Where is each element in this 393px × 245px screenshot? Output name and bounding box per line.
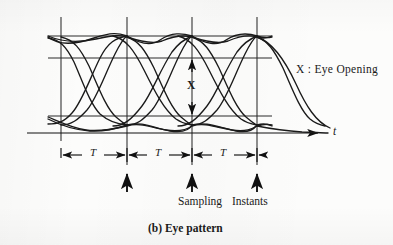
trace-top-b [48,36,272,43]
trace-fall-4 [113,36,192,125]
time-axis-label: t [333,126,336,138]
guide-levels [48,36,272,116]
eye-opening-symbol: X [187,80,195,92]
trace-fall-7 [257,37,325,126]
trace-rise-1 [48,36,127,124]
trace-bottom-b [48,119,272,132]
sampling-instant-arrows [127,174,257,192]
symbol-period-label-2: T [220,147,226,158]
eye-opening-legend: X : Eye Opening [296,64,378,76]
instants-label: Instants [232,196,268,208]
symbol-period-label-1: T [155,147,161,158]
trace-rise-2 [61,36,127,125]
eye-diagram-canvas [0,0,393,245]
trace-tail-settle [257,37,330,128]
symbol-period-label-0: T [90,147,96,158]
sampling-label: Sampling [178,196,222,208]
trace-fall-1 [48,38,127,125]
eye-pattern-figure: X : Eye Opening t X T T T Sampling Insta… [0,0,393,245]
trace-tail-low [257,126,328,133]
figure-caption: (b) Eye pattern [148,223,223,235]
trace-rise-4 [113,36,192,126]
